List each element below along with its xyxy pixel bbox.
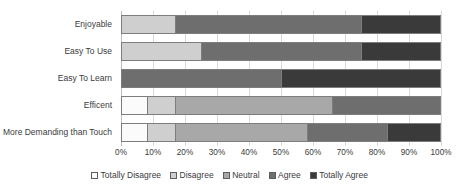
bar-segment	[307, 123, 387, 142]
x-tick-label: 0%	[115, 148, 127, 157]
bar-segment	[175, 96, 332, 115]
legend-swatch-icon	[310, 172, 317, 179]
bar-segment	[121, 96, 147, 115]
bar-segment	[175, 15, 361, 34]
bar-row	[121, 15, 441, 34]
legend-item[interactable]: Agree	[269, 170, 301, 180]
bar-row	[121, 123, 441, 142]
legend-label: Totally Agree	[319, 170, 368, 180]
x-tick-label: 20%	[177, 148, 193, 157]
x-tick-label: 90%	[401, 148, 417, 157]
category-axis-labels: EnjoyableEasy To UseEasy To LearnEfficen…	[0, 11, 115, 146]
bar-segment	[387, 123, 441, 142]
bar-segment	[361, 15, 441, 34]
x-tick-label: 100%	[431, 148, 452, 157]
legend-item[interactable]: Disagree	[170, 170, 214, 180]
x-tick-label: 70%	[337, 148, 353, 157]
bar-segment	[121, 69, 281, 88]
x-tick-label: 10%	[145, 148, 161, 157]
bar-segment	[175, 123, 306, 142]
stacked-bar-chart: EnjoyableEasy To UseEasy To LearnEfficen…	[0, 0, 459, 194]
chart-legend: Totally DisagreeDisagreeNeutralAgreeTota…	[0, 170, 459, 180]
bar-segment	[281, 69, 441, 88]
bar-segment	[121, 15, 175, 34]
legend-label: Totally Disagree	[101, 170, 161, 180]
x-tick-label: 30%	[209, 148, 225, 157]
legend-swatch-icon	[170, 172, 177, 179]
x-tick-label: 40%	[241, 148, 257, 157]
x-tick-label: 50%	[273, 148, 289, 157]
bar-series-container	[121, 11, 441, 146]
x-axis-tick-labels: 0%10%20%30%40%50%60%70%80%90%100%	[121, 148, 441, 162]
x-tick-label: 60%	[305, 148, 321, 157]
legend-item[interactable]: Neutral	[223, 170, 260, 180]
legend-label: Disagree	[180, 170, 214, 180]
bar-row	[121, 69, 441, 88]
category-label: More Demanding than Touch	[0, 123, 115, 142]
gridline	[441, 11, 442, 146]
legend-label: Agree	[278, 170, 301, 180]
category-label: Efficent	[0, 96, 115, 115]
category-label: Easy To Use	[0, 42, 115, 61]
bar-row	[121, 42, 441, 61]
bar-segment	[121, 42, 201, 61]
legend-item[interactable]: Totally Disagree	[91, 170, 161, 180]
legend-swatch-icon	[269, 172, 276, 179]
legend-swatch-icon	[223, 172, 230, 179]
legend-item[interactable]: Totally Agree	[310, 170, 368, 180]
bar-segment	[361, 42, 441, 61]
plot-area	[121, 11, 441, 146]
legend-swatch-icon	[91, 172, 98, 179]
x-tick-label: 80%	[369, 148, 385, 157]
category-label: Easy To Learn	[0, 69, 115, 88]
bar-segment	[332, 96, 441, 115]
bar-segment	[201, 42, 361, 61]
category-label: Enjoyable	[0, 15, 115, 34]
bar-segment	[121, 123, 147, 142]
bar-segment	[147, 96, 176, 115]
bar-segment	[147, 123, 176, 142]
bar-row	[121, 96, 441, 115]
legend-label: Neutral	[232, 170, 259, 180]
